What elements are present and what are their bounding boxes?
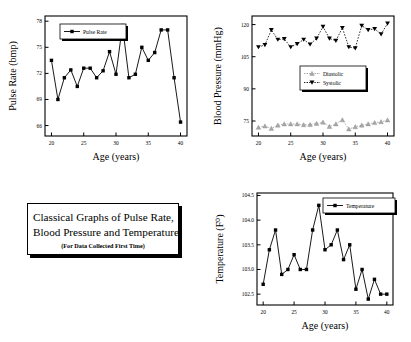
data-point	[367, 297, 370, 300]
legend-marker	[333, 204, 336, 207]
bp-legend[interactable]: DiastolicSystolic	[300, 66, 368, 92]
data-point	[69, 68, 72, 71]
bp-y-axis-ticks: 7590105120	[241, 22, 256, 124]
data-point	[263, 43, 268, 47]
data-point	[301, 38, 306, 42]
data-point	[314, 37, 319, 41]
data-point	[311, 228, 314, 231]
data-point	[308, 42, 313, 46]
x-tick-label: 25	[288, 140, 294, 146]
data-point	[305, 268, 308, 271]
caption-box: Classical Graphs of Pulse Rate, Blood Pr…	[27, 203, 179, 255]
data-point	[63, 76, 66, 79]
data-point	[323, 248, 326, 251]
data-point	[101, 69, 104, 72]
data-point	[166, 28, 169, 31]
data-point	[82, 66, 85, 69]
data-point	[261, 283, 264, 286]
y-tick-label: 78	[37, 18, 43, 24]
data-point	[108, 50, 111, 53]
caption-panel: Classical Graphs of Pulse Rate, Blood Pr…	[0, 171, 205, 342]
data-point	[268, 248, 271, 251]
x-tick-label: 35	[146, 140, 152, 146]
data-point	[359, 24, 364, 28]
x-tick-label: 35	[353, 140, 359, 146]
data-point	[295, 122, 300, 126]
y-tick-label: 66	[37, 123, 43, 129]
x-tick-label: 30	[322, 309, 328, 315]
data-point	[299, 268, 302, 271]
data-point	[76, 85, 79, 88]
data-point	[153, 51, 156, 54]
y-tick-label: 104.0	[242, 217, 254, 223]
temperature-chart: 102.5103.0103.5104.0104.5 2025303540 Tem…	[205, 171, 411, 342]
y-tick-label: 90	[244, 86, 250, 92]
data-point	[379, 32, 384, 36]
y-tick-label: 69	[37, 96, 43, 102]
legend-label: Systolic	[323, 80, 342, 86]
data-point	[327, 124, 332, 128]
data-point	[134, 73, 137, 76]
caption-line-1: Classical Graphs of Pulse Rate,	[33, 210, 173, 225]
data-point	[282, 122, 287, 126]
data-point	[269, 28, 274, 32]
data-point	[256, 125, 261, 129]
temp-y-axis-label: Temperature (F⁰)	[214, 214, 226, 283]
legend-label: Temperature	[346, 203, 375, 209]
caption-subtitle: (For Data Collected First Time)	[33, 242, 173, 249]
x-tick-label: 20	[49, 140, 55, 146]
data-point	[360, 268, 363, 271]
data-point	[292, 253, 295, 256]
temp-y-axis-ticks: 102.5103.0103.5104.0104.5	[242, 192, 261, 297]
data-point	[379, 292, 382, 295]
data-point	[340, 118, 345, 122]
data-point	[342, 258, 345, 261]
blood-pressure-chart: 7590105120 2025303540 DiastolicSystolic …	[205, 0, 411, 171]
x-tick-label: 30	[113, 140, 119, 146]
x-tick-label: 40	[178, 140, 184, 146]
data-point	[179, 120, 182, 123]
legend-marker	[70, 30, 73, 33]
temperature-plot: 102.5103.0103.5104.0104.5 2025303540 Tem…	[205, 171, 411, 342]
y-tick-label: 102.5	[242, 291, 254, 297]
caption-line-2: Blood Pressure and Temperature	[33, 225, 173, 240]
data-point	[321, 120, 326, 124]
x-tick-label: 25	[81, 140, 87, 146]
data-point	[379, 120, 384, 124]
data-point	[269, 126, 274, 130]
data-point	[256, 45, 261, 49]
blood-pressure-plot: 7590105120 2025303540 DiastolicSystolic …	[205, 0, 411, 171]
data-point	[373, 278, 376, 281]
data-point	[385, 118, 390, 122]
y-tick-label: 104.5	[242, 192, 254, 198]
x-tick-label: 40	[384, 309, 390, 315]
temp-legend[interactable]: Temperature	[323, 198, 397, 215]
data-point	[274, 228, 277, 231]
legend-label: Pulse Rate	[83, 29, 107, 35]
data-point	[280, 273, 283, 276]
bp-y-axis-label: Blood Pressure (mmHg)	[212, 27, 224, 125]
pulse-legend[interactable]: Pulse Rate	[60, 24, 128, 41]
y-tick-label: 72	[37, 70, 43, 76]
data-point	[50, 59, 53, 62]
data-point	[366, 28, 371, 32]
data-point	[317, 204, 320, 207]
x-tick-label: 40	[385, 140, 391, 146]
pulse-x-axis-label: Age (years)	[93, 151, 140, 163]
data-point	[334, 39, 339, 43]
data-point	[147, 59, 150, 62]
y-tick-label: 103.5	[242, 242, 254, 248]
data-point	[295, 42, 300, 46]
data-point	[354, 288, 357, 291]
data-point	[385, 22, 390, 26]
pulse-rate-chart: 6669727578 2025303540 Pulse Rate Age (ye…	[0, 0, 205, 171]
data-point	[140, 46, 143, 49]
pulse-y-axis-ticks: 6669727578	[37, 18, 49, 128]
data-point	[348, 243, 351, 246]
x-tick-label: 20	[256, 140, 262, 146]
data-point	[286, 268, 289, 271]
data-point	[288, 45, 293, 49]
legend-label: Diastolic	[323, 71, 344, 77]
data-point	[329, 243, 332, 246]
pulse-y-axis-label: Pulse Rate (bmp)	[7, 41, 19, 110]
